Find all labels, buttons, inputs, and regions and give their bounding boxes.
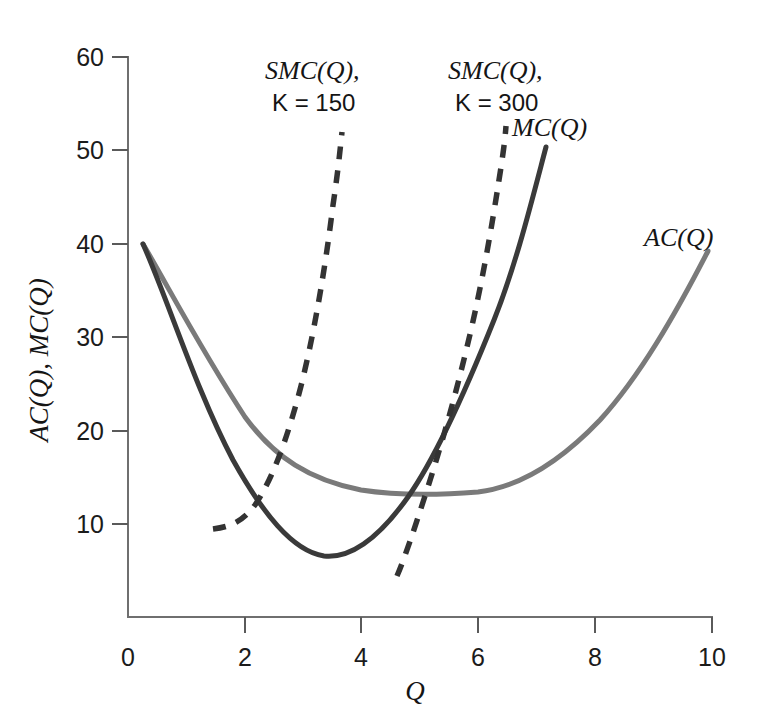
smc-150-curve bbox=[213, 132, 342, 529]
x-tick-label-4: 4 bbox=[354, 643, 368, 671]
y-tick-label-60: 60 bbox=[76, 43, 104, 71]
y-tick-label-50: 50 bbox=[76, 136, 104, 164]
y-tick-label-20: 20 bbox=[76, 417, 104, 445]
x-tick-label-2: 2 bbox=[238, 643, 252, 671]
y-tick-label-30: 30 bbox=[76, 323, 104, 351]
ac-curve-label: AC(Q) bbox=[642, 223, 713, 252]
smc-300-curve bbox=[397, 126, 506, 576]
y-axis-title: AC(Q), MC(Q) bbox=[24, 278, 54, 443]
smc-150-label-line1: SMC(Q), bbox=[265, 56, 360, 85]
mc-curve-label: MC(Q) bbox=[511, 113, 587, 142]
x-axis-title: Q bbox=[405, 676, 425, 706]
chart-figure: 60 50 40 30 20 10 0 2 4 6 8 10 Q AC(Q), … bbox=[0, 0, 778, 713]
smc-300-label-line1: SMC(Q), bbox=[448, 56, 543, 85]
smc-300-label-line2: K = 300 bbox=[455, 89, 538, 116]
x-tick-label-8: 8 bbox=[588, 643, 602, 671]
y-tick-label-10: 10 bbox=[76, 510, 104, 538]
x-tick-label-0: 0 bbox=[121, 643, 135, 671]
y-tick-label-40: 40 bbox=[76, 230, 104, 258]
cost-curves-plot: 60 50 40 30 20 10 0 2 4 6 8 10 Q AC(Q), … bbox=[0, 0, 778, 713]
x-tick-label-6: 6 bbox=[471, 643, 485, 671]
ac-curve bbox=[143, 244, 708, 494]
x-tick-label-10: 10 bbox=[698, 643, 726, 671]
smc-150-label-line2: K = 150 bbox=[272, 89, 355, 116]
